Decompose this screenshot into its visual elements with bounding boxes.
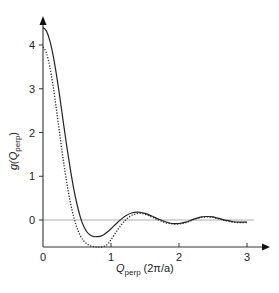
x-axis-arrow-icon [262, 244, 270, 251]
y-tick-label: 4 [29, 39, 35, 51]
x-axis-ticks: 0123 [40, 243, 250, 263]
solid-curve [43, 28, 247, 237]
y-tick-label: 3 [29, 83, 35, 95]
x-tick-label: 2 [176, 251, 182, 263]
y-tick-label: 0 [29, 214, 35, 226]
y-axis-ticks: 01234 [29, 39, 43, 226]
y-tick-label: 1 [29, 170, 35, 182]
y-tick-label: 2 [29, 127, 35, 139]
x-tick-label: 0 [40, 251, 46, 263]
x-tick-label: 1 [108, 251, 114, 263]
x-axis-label: Qperp(2π/a) [116, 262, 174, 277]
x-tick-label: 3 [244, 251, 250, 263]
y-axis-label: g(Qperp) [7, 132, 22, 170]
chart: 01234 0123 Qperp(2π/a) g(Qperp) [0, 0, 279, 293]
y-axis-arrow-icon [40, 16, 47, 25]
